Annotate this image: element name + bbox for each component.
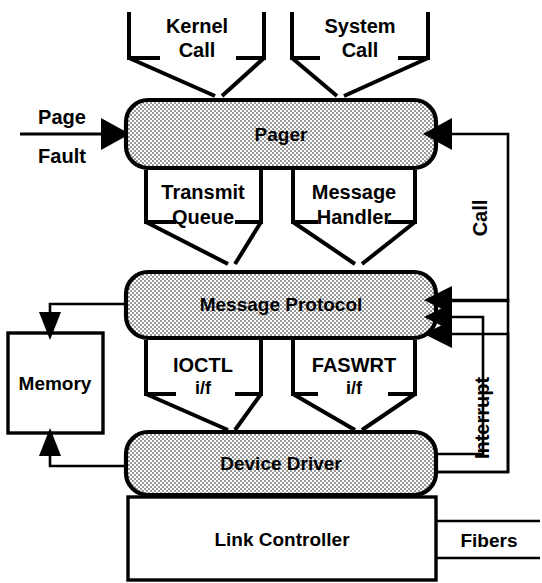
message-protocol-label: Message Protocol bbox=[200, 294, 363, 315]
kernel-call-right-stem bbox=[222, 12, 264, 96]
page-fault-label-line2: Fault bbox=[38, 145, 86, 167]
device-driver-label: Device Driver bbox=[220, 453, 342, 474]
call-feedback-label: Call bbox=[469, 200, 491, 237]
faswrt-label-line1: FASWRT bbox=[312, 354, 396, 376]
message-handler-label-line1: Message bbox=[312, 181, 397, 203]
faswrt-label-line2: i/f bbox=[346, 378, 363, 398]
diagram-canvas: Kernel Call System Call Page Fault Pager bbox=[0, 0, 542, 583]
architecture-diagram: Kernel Call System Call Page Fault Pager bbox=[0, 0, 542, 583]
fibers-label: Fibers bbox=[460, 530, 517, 551]
ioctl-right-stem bbox=[235, 340, 261, 430]
message-handler-label-line2: Handler bbox=[317, 206, 392, 228]
page-fault-label-line1: Page bbox=[38, 106, 86, 128]
transmit-queue-label-line1: Transmit bbox=[161, 181, 245, 203]
ioctl-label-line1: IOCTL bbox=[173, 354, 233, 376]
transmit-queue-label-line2: Queue bbox=[172, 206, 234, 228]
kernel-call-label-line1: Kernel bbox=[166, 15, 228, 37]
link-controller-label: Link Controller bbox=[214, 529, 350, 550]
kernel-call-label-line2: Call bbox=[179, 39, 216, 61]
system-call-label-line1: System bbox=[324, 15, 395, 37]
interrupt-feedback-label: Interrupt bbox=[471, 377, 493, 460]
pager-label: Pager bbox=[255, 124, 308, 145]
memory-label: Memory bbox=[19, 373, 92, 394]
system-call-label-line2: Call bbox=[342, 39, 379, 61]
ioctl-label-line2: i/f bbox=[195, 378, 212, 398]
